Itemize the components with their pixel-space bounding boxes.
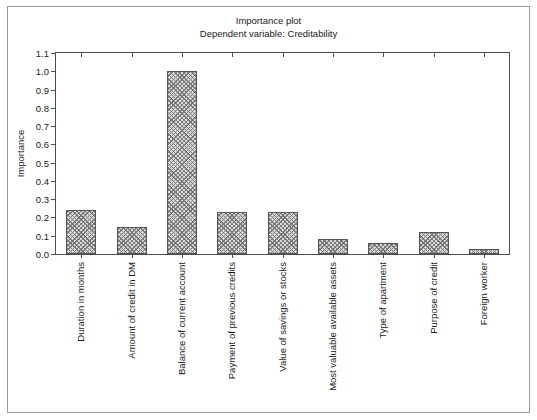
top-axis-tick: [484, 53, 485, 57]
top-axis-tick: [232, 53, 233, 57]
x-axis-category-label: Type of apartment: [375, 262, 389, 402]
y-axis-tick-label: 0.2: [36, 212, 49, 223]
y-axis-tick-label: 0.0: [36, 249, 49, 260]
y-axis-tick: [51, 144, 56, 145]
y-axis-tick-label: 0.7: [36, 121, 49, 132]
x-axis-tick: [383, 254, 384, 258]
x-axis-category-label-text: Most valuable available assets: [326, 262, 337, 391]
y-axis-tick-label: 0.4: [36, 175, 49, 186]
top-axis-tick: [81, 53, 82, 57]
y-axis-tick: [51, 53, 56, 54]
top-axis-tick: [182, 53, 183, 57]
x-axis-tick: [283, 254, 284, 258]
bar: [66, 210, 96, 254]
y-axis-tick: [51, 90, 56, 91]
bar: [419, 232, 449, 254]
top-axis-tick: [434, 53, 435, 57]
x-axis-category-label-text: Duration in months: [75, 262, 86, 342]
y-axis-tick-label: 0.6: [36, 139, 49, 150]
y-axis-tick-label: 0.3: [36, 194, 49, 205]
x-axis-category-label: Foreign worker: [476, 262, 490, 402]
x-axis-category-label: Most valuable available assets: [325, 262, 339, 402]
bar: [368, 243, 398, 254]
bar: [167, 71, 197, 254]
bar: [268, 212, 298, 254]
bar: [217, 212, 247, 254]
bar: [469, 249, 499, 254]
x-axis-category-label: Value of savings or stocks: [275, 262, 289, 402]
y-axis-tick-label: 0.9: [36, 84, 49, 95]
x-axis-tick: [132, 254, 133, 258]
x-axis-category-label: Balance of current account: [174, 262, 188, 402]
y-axis-tick-label: 1.0: [36, 66, 49, 77]
x-axis-tick: [333, 254, 334, 258]
y-axis-tick-label: 1.1: [36, 48, 49, 59]
x-axis-tick: [81, 254, 82, 258]
x-axis-category-label: Duration in months: [73, 262, 87, 402]
x-axis-category-label: Payment of previous credits: [224, 262, 238, 402]
plot-area: 0.00.10.20.30.40.50.60.70.80.91.01.1: [55, 52, 510, 255]
importance-plot-figure: Importance plot Dependent variable: Cred…: [0, 0, 537, 420]
y-axis-tick: [51, 126, 56, 127]
y-axis-tick: [51, 71, 56, 72]
x-axis-tick: [484, 254, 485, 258]
bar: [117, 227, 147, 254]
x-axis-category-label-text: Type of apartment: [377, 262, 388, 339]
y-axis-tick-label: 0.1: [36, 230, 49, 241]
x-axis-category-label-text: Balance of current account: [175, 262, 186, 375]
y-axis-tick: [51, 181, 56, 182]
x-axis-category-label-text: Foreign worker: [477, 262, 488, 325]
y-axis-tick-label: 0.8: [36, 102, 49, 113]
x-axis-tick: [232, 254, 233, 258]
y-axis-title-text: Importance: [16, 130, 27, 178]
x-axis-category-label-text: Purpose of credit: [427, 262, 438, 334]
x-axis-category-label: Purpose of credit: [426, 262, 440, 402]
y-axis-title: Importance: [14, 52, 28, 255]
x-axis-tick: [182, 254, 183, 258]
top-axis-tick: [383, 53, 384, 57]
bar: [318, 239, 348, 254]
top-axis-tick: [283, 53, 284, 57]
top-axis-tick: [333, 53, 334, 57]
y-axis-tick: [51, 108, 56, 109]
x-axis-category-label-text: Payment of previous credits: [226, 262, 237, 379]
top-axis-tick: [132, 53, 133, 57]
x-axis-category-label-text: Value of savings or stocks: [276, 262, 287, 372]
x-axis-category-label: Amount of credit in DM: [124, 262, 138, 402]
y-axis-tick-label: 0.5: [36, 157, 49, 168]
x-axis-category-label-text: Amount of credit in DM: [125, 262, 136, 359]
y-axis-tick: [51, 163, 56, 164]
y-axis-tick: [51, 236, 56, 237]
y-axis-tick: [51, 217, 56, 218]
x-axis-tick: [434, 254, 435, 258]
y-axis-tick: [51, 199, 56, 200]
y-axis-tick: [51, 254, 56, 255]
